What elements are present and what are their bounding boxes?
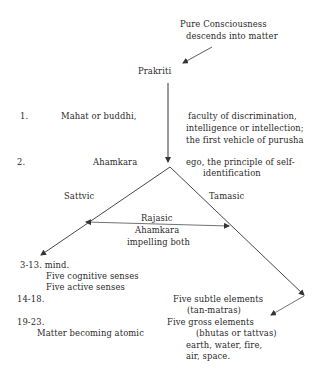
prakriti-label: Prakriti [138,66,171,76]
cognitive-senses: Five cognitive senses [46,271,139,281]
elements-list-1: earth, water, fire, [186,340,262,350]
stage1-name: Mahat or buddhi, [61,111,137,121]
top-label-line1: Pure Consciousness [180,19,267,29]
subtle-elements: Five subtle elements [173,294,263,304]
stage2-name: Ahamkara [93,157,137,167]
tamasic-label: Tamasic [209,191,244,201]
gross-elements: Five gross elements [167,317,254,327]
descent-arrow [183,47,212,63]
rajasic-impelling-label: impelling both [127,237,190,247]
range-19-23: 19-23. [17,317,44,327]
range-14-18: 14-18. [17,294,44,304]
stage2-desc2: identification [203,168,261,178]
stage1-number: 1. [20,111,28,121]
tamasic-branch-arrow [170,167,304,295]
diagram-connectors [0,0,330,378]
stage1-desc3: the first vehicle of purusha [186,135,304,145]
matter-atomic: Matter becoming atomic [37,328,144,338]
rajasic-ahamkara-label: Ahamkara [135,225,179,235]
elements-list-2: air, space. [186,351,230,361]
active-senses: Five active senses [46,282,125,292]
stage2-desc1: ego, the principle of self- [186,157,295,167]
bhutas-tattvas: (bhutas or tattvas) [196,328,277,338]
rajasic-label: Rajasic [141,213,172,223]
stage1-desc1: faculty of discrimination, [188,111,297,121]
stage1-desc2: intelligence or intellection; [186,123,304,133]
range-3-13: 3-13. mind. [20,260,69,270]
subtle-to-gross-arrow [271,296,304,315]
sattvic-label: Sattvic [64,191,94,201]
top-label-line2: descends into matter [186,31,278,41]
stage2-number: 2. [17,157,25,167]
tan-matras: (tan-matras) [187,305,241,315]
